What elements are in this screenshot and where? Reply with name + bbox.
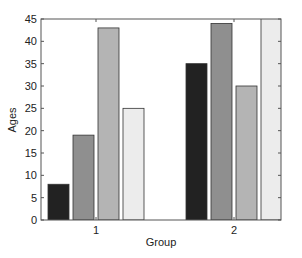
y-tick-label: 40 bbox=[25, 35, 37, 47]
x-tick-label: 1 bbox=[93, 224, 99, 236]
y-tick-label: 20 bbox=[25, 125, 37, 137]
bar bbox=[186, 64, 207, 220]
y-tick-label: 5 bbox=[31, 192, 37, 204]
bars bbox=[48, 6, 282, 220]
x-axis-label: Group bbox=[146, 236, 177, 248]
y-tick-label: 15 bbox=[25, 147, 37, 159]
bar bbox=[236, 86, 257, 220]
bar bbox=[123, 108, 144, 220]
bar bbox=[98, 28, 119, 220]
y-tick-label: 30 bbox=[25, 80, 37, 92]
y-tick-label: 25 bbox=[25, 102, 37, 114]
y-axis-label: Ages bbox=[6, 107, 18, 133]
y-tick-label: 45 bbox=[25, 13, 37, 25]
bar bbox=[211, 23, 232, 220]
bar bbox=[261, 6, 282, 220]
x-tick-label: 2 bbox=[231, 224, 237, 236]
bar bbox=[48, 184, 69, 220]
y-tick-label: 35 bbox=[25, 58, 37, 70]
bar-chart: 051015202530354045 12 Group Ages bbox=[0, 0, 302, 258]
y-tick-label: 10 bbox=[25, 169, 37, 181]
bar bbox=[73, 135, 94, 220]
y-tick-label: 0 bbox=[31, 214, 37, 226]
